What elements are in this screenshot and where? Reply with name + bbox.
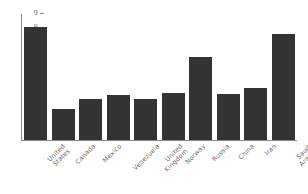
bars-group xyxy=(22,14,297,140)
x-axis-label: Venezuela xyxy=(132,143,161,172)
bar[interactable] xyxy=(272,34,295,140)
x-axis-label: Iran xyxy=(264,143,278,157)
x-axis-label: Canada xyxy=(75,143,98,166)
x-axis-labels: United StatesCanadaMexicoVenezuelaUnited… xyxy=(22,141,297,194)
bar[interactable] xyxy=(162,93,185,140)
bar[interactable] xyxy=(134,99,157,140)
bar[interactable] xyxy=(107,95,130,140)
x-axis-label: China xyxy=(238,143,256,161)
bar[interactable] xyxy=(189,57,212,140)
x-axis-label: Saudi Arabia xyxy=(294,143,308,168)
x-axis-label: Russia xyxy=(211,143,231,163)
bar-chart: 0123456789 United StatesCanadaMexicoVene… xyxy=(0,0,308,194)
bar[interactable] xyxy=(24,27,47,140)
x-axis-label: Norway xyxy=(185,143,208,166)
x-axis-label: Mexico xyxy=(102,143,123,164)
x-axis-label: United States xyxy=(46,143,71,168)
bar[interactable] xyxy=(52,109,75,141)
bar[interactable] xyxy=(79,99,102,140)
bar[interactable] xyxy=(217,94,240,140)
bar[interactable] xyxy=(244,88,267,141)
